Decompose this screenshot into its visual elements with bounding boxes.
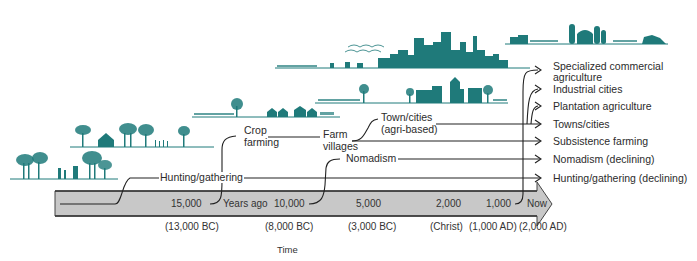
date-13000-bc: (13,000 BC) — [165, 221, 219, 232]
outcome-towns-cities: Towns/cities — [553, 119, 610, 130]
tick-1000: 1,000 — [486, 198, 511, 209]
hut-and-trees-scene-illustration — [70, 123, 214, 147]
outcome-specialized-commercial-line2: agriculture — [553, 72, 602, 83]
forest-hunters-scene-illustration — [10, 151, 118, 179]
flow-lines — [60, 66, 541, 204]
axis-title-time: Time — [277, 244, 298, 255]
outcome-nomadism-declining: Nomadism (declining) — [553, 154, 655, 165]
stage-farm-villages-line1: Farm — [322, 129, 349, 140]
tick-5000: 5,000 — [356, 198, 381, 209]
stage-crop-farming-line2: farming — [243, 137, 280, 148]
villages-to-town-branch — [352, 119, 378, 141]
stage-farm-villages-line2: villages — [322, 141, 359, 152]
industrial-city-skyline-illustration — [275, 32, 530, 68]
outcome-hunting-gathering-declining: Hunting/gathering (declining) — [553, 173, 687, 184]
date-8000-bc: (8,000 BC) — [265, 221, 313, 232]
stage-crop-farming-line1: Crop — [243, 125, 268, 136]
tick-now: Now — [527, 198, 547, 209]
outcome-industrial-cities: Industrial cities — [553, 84, 622, 95]
date-christ: (Christ) — [430, 221, 463, 232]
stage-town-cities-line2: (agri-based) — [380, 124, 439, 135]
date-2000-ad: (2,000 AD) — [519, 221, 567, 232]
commercial-farm-silos-illustration — [505, 24, 668, 44]
axis-years-ago-label: Years ago — [223, 198, 268, 209]
date-3000-bc: (3,000 BC) — [348, 221, 396, 232]
tick-2000: 2,000 — [436, 198, 461, 209]
farm-village-scene-illustration — [192, 98, 340, 117]
date-1000-ad: (1,000 AD) — [469, 221, 517, 232]
town-scene-illustration — [315, 77, 508, 103]
human-settlement-timeline-diagram: Hunting/gathering Crop farming Farm vill… — [0, 0, 697, 261]
tick-10000: 10,000 — [274, 198, 305, 209]
stage-town-cities-line1: Town/cities — [380, 112, 433, 123]
stage-nomadism: Nomadism — [345, 153, 397, 164]
stage-hunting-gathering: Hunting/gathering — [159, 172, 244, 183]
outcome-subsistence-farming: Subsistence farming — [553, 136, 648, 147]
outcome-plantation-agriculture: Plantation agriculture — [553, 101, 652, 112]
tick-15000: 15,000 — [171, 198, 202, 209]
